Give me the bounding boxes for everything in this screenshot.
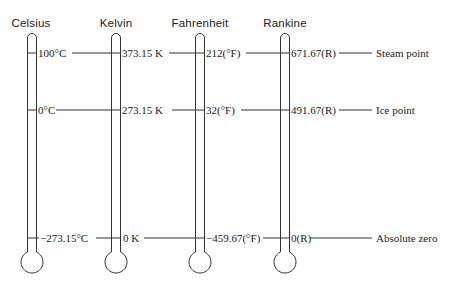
kelvin-ice-value: 273.15 K [122,104,163,116]
fahrenheit-heading: Fahrenheit [172,17,229,29]
rankine-absolute-value: 0(R) [291,232,311,244]
fahrenheit-absolute-value: −459.67(°F) [206,232,260,244]
celsius-steam-value: 100°C [38,47,66,59]
kelvin-absolute-value: 0 K [123,232,139,244]
thermometer-drawing [0,0,451,289]
rankine-ice-value: 491.67(R) [291,104,336,116]
fahrenheit-ice-value: 32(°F) [206,104,235,116]
absolute-zero-label: Absolute zero [376,232,437,244]
kelvin-steam-value: 373.15 K [122,47,163,59]
steam-point-label: Steam point [376,47,429,59]
kelvin-heading: Kelvin [100,17,133,29]
celsius-absolute-value: −273.15°C [40,232,88,244]
fahrenheit-steam-value: 212(°F) [206,47,240,59]
ice-point-label: Ice point [376,104,415,116]
celsius-ice-value: 0°C [38,104,55,116]
rankine-steam-value: 671.67(R) [291,47,336,59]
rankine-heading: Rankine [263,17,307,29]
celsius-heading: Celsius [11,17,50,29]
